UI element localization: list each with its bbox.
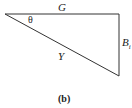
figure-caption: (b) [58,94,70,104]
label-b: Bi [122,37,131,51]
right-triangle [5,14,119,76]
label-theta: θ [28,15,33,25]
label-y: Y [58,51,64,62]
triangle-diagram [0,0,132,108]
label-g: G [58,2,66,13]
